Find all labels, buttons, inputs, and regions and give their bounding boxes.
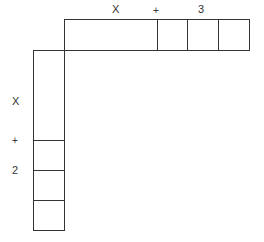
top-unit-tile-2 [187,19,219,51]
top-unit-tile-3 [218,19,250,51]
top-variable-label: X [112,3,119,15]
left-constant-label: 2 [12,164,18,176]
left-unit-tile-3 [33,200,65,231]
left-unit-tile-2 [33,170,65,201]
left-x-tile [33,50,65,141]
left-operator-label: + [12,135,18,147]
left-unit-tile-1 [33,140,65,171]
top-operator-label: + [153,5,159,17]
left-variable-label: X [12,95,19,107]
top-x-tile [64,19,158,51]
top-constant-label: 3 [198,3,204,15]
top-unit-tile-1 [157,19,188,51]
